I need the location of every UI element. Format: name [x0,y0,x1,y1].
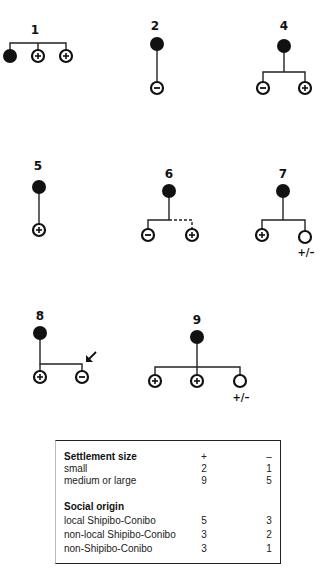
row-label: non-Shipibo-Conibo [64,543,152,555]
minus-value: 1 [264,543,274,555]
diagram-8-label: 8 [36,309,44,323]
plus-minus-label: +/– [232,392,249,403]
row-label: medium or large [64,475,136,487]
circle-minus-icon [257,82,269,94]
circle-plus-icon [256,229,268,241]
minus-value: 5 [264,475,274,487]
minus-value: 2 [264,529,274,541]
row-label: non-local Shipibo-Conibo [64,529,176,541]
diagram-9: 9 +/– [149,313,250,403]
filled-circle-icon [162,184,176,198]
diagram-6: 6 [142,167,198,241]
arrow-icon [86,352,96,362]
section-heading-social-origin: Social origin [64,501,124,513]
plus-value: 9 [199,475,209,487]
circle-plus-icon [32,50,44,62]
open-circle-icon [299,231,311,243]
circle-plus-icon [34,371,46,383]
minus-value: 3 [264,515,274,527]
plus-minus-label: +/– [297,247,314,258]
circle-minus-icon [76,371,88,383]
diagram-7: 7 +/– [256,167,315,258]
column-header-minus: – [264,451,274,463]
circle-plus-icon [60,50,72,62]
circle-minus-icon [151,82,163,94]
diagram-2-label: 2 [151,19,159,33]
filled-circle-icon [190,330,204,344]
filled-circle-icon [3,49,17,63]
plus-value: 3 [199,543,209,555]
section-heading-settlement-size: Settlement size [64,451,137,463]
diagram-1-label: 1 [31,23,39,37]
open-circle-icon [234,375,246,387]
circle-plus-icon [149,375,161,387]
plus-value: 3 [199,529,209,541]
circle-minus-icon [142,229,154,241]
minus-value: 1 [264,463,274,475]
plus-value: 2 [199,463,209,475]
diagram-4-label: 4 [280,19,288,33]
circle-plus-icon [33,224,45,236]
diagram-7-label: 7 [279,167,287,181]
kinship-diagrams: 1 2 4 5 6 7 +/– 8 [0,0,331,430]
summary-table: Settlement size + – small 2 1 medium or … [55,440,281,564]
filled-circle-icon [276,184,290,198]
diagram-9-label: 9 [193,313,201,327]
filled-circle-icon [33,326,47,340]
filled-circle-icon [32,180,46,194]
column-header-plus: + [199,451,209,463]
plus-value: 5 [199,515,209,527]
row-label: local Shipibo-Conibo [64,515,156,527]
diagram-5-label: 5 [34,159,42,173]
filled-circle-icon [150,37,164,51]
row-label: small [64,463,87,475]
filled-circle-icon [277,39,291,53]
circle-plus-icon [191,375,203,387]
diagram-8: 8 [33,309,96,383]
diagram-6-label: 6 [165,167,173,181]
circle-plus-icon [186,229,198,241]
circle-plus-icon [299,82,311,94]
